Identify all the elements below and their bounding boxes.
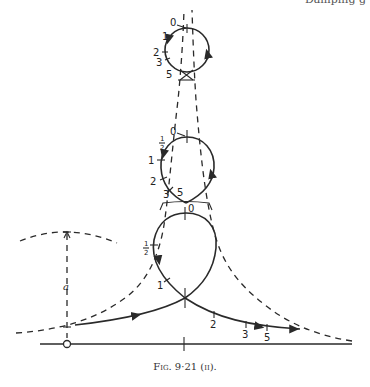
figure-caption: Fig. 9·21 (ii).: [0, 361, 370, 372]
middle-loop-arrow-left: [163, 152, 164, 156]
middle-loop-arrow: [211, 172, 212, 176]
envelope-curve-left: [20, 232, 117, 243]
label-top-3: 3: [156, 57, 162, 68]
trajectory-bottom-loop: [75, 213, 300, 329]
trajectory-diagram: a 0 1 2 1 2 3 5 0 1 2 1 2 3 5 0: [0, 0, 370, 387]
trajectory-arrow-4: [158, 256, 159, 262]
origin-marker: [64, 341, 71, 348]
label-top-5: 5: [166, 69, 172, 80]
label-middle-1: 1: [148, 155, 154, 166]
label-middle-5: 5: [177, 187, 183, 198]
label-bottom-1: 1: [157, 280, 163, 291]
top-loop-arrow: [207, 52, 208, 56]
label-top-0-leader: [177, 25, 186, 28]
label-top-1: 1: [162, 31, 168, 42]
amplitude-label: a: [63, 281, 69, 292]
label-bottom-0: 0: [188, 203, 194, 214]
trajectory-arrow-1: [133, 315, 138, 316]
label-top-0: 0: [170, 17, 176, 28]
label-middle-half-num: 1: [160, 135, 164, 143]
trajectory-arrow-2: [256, 326, 261, 327]
label-bottom-half-den: 2: [144, 249, 148, 257]
label-bottom-3: 3: [242, 329, 248, 340]
label-middle-3: 3: [163, 189, 169, 200]
label-bottom-2: 2: [210, 319, 216, 330]
label-bottom-half-num: 1: [144, 240, 148, 248]
envelope-curve-inner-right: [192, 10, 352, 341]
label-bottom-5: 5: [264, 332, 270, 343]
label-middle-2: 2: [150, 176, 156, 187]
label-middle-0-leader: [177, 133, 185, 136]
label-middle-0: 0: [170, 126, 176, 137]
label-middle-half-den: 2: [160, 144, 164, 152]
trajectory-top-loop: [165, 28, 209, 72]
